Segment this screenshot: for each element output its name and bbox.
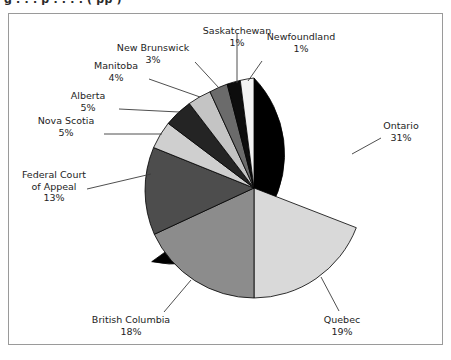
pie-label-nova-scotia-value: 5% — [31, 127, 101, 139]
pie-label-federal-court-of-appeal-name: Federal Court — [21, 169, 87, 181]
pie-label-alberta: Alberta 5% — [59, 90, 117, 113]
figure-caption-text: g . . . p . . . . ( pp ) — [4, 0, 122, 6]
leader-line-british-columbia — [164, 280, 191, 312]
pie-label-manitoba-value: 4% — [85, 72, 147, 84]
pie-label-nova-scotia-name: Nova Scotia — [31, 115, 101, 127]
leader-line-manitoba — [149, 79, 200, 97]
pie-slice-quebec[interactable] — [254, 188, 356, 298]
pie-slices — [145, 78, 356, 298]
figure-caption-cropped: g . . . p . . . . ( pp ) — [0, 0, 451, 11]
pie-label-new-brunswick-name: New Brunswick — [113, 42, 193, 54]
pie-label-federal-court-of-appeal: Federal Court of Appeal 13% — [21, 169, 87, 204]
leader-line-newfoundland — [248, 61, 262, 81]
pie-label-newfoundland: Newfoundland 1% — [262, 31, 340, 54]
pie-label-nova-scotia: Nova Scotia 5% — [31, 115, 101, 138]
chart-frame: Saskatchewan 1% Newfoundland 1% New Brun… — [8, 13, 443, 345]
pie-label-newfoundland-name: Newfoundland — [262, 31, 340, 43]
pie-label-alberta-name: Alberta — [59, 90, 117, 102]
leader-line-quebec — [321, 277, 339, 311]
pie-label-manitoba-name: Manitoba — [85, 60, 147, 72]
pie-label-quebec-name: Quebec — [312, 314, 372, 326]
pie-label-quebec: Quebec 19% — [312, 314, 372, 337]
pie-label-federal-court-of-appeal-value: 13% — [21, 192, 87, 204]
leader-line-new-brunswick — [195, 62, 219, 88]
pie-label-manitoba: Manitoba 4% — [85, 60, 147, 83]
pie-label-ontario-name: Ontario — [373, 120, 429, 132]
pie-label-federal-court-of-appeal-name2: of Appeal — [21, 181, 87, 193]
pie-label-alberta-value: 5% — [59, 102, 117, 114]
pie-label-british-columbia: British Columbia 18% — [82, 314, 180, 337]
pie-label-newfoundland-value: 1% — [262, 43, 340, 55]
screenshot-root: g . . . p . . . . ( pp ) — [0, 0, 451, 360]
pie-label-british-columbia-name: British Columbia — [82, 314, 180, 326]
leader-line-alberta — [119, 109, 179, 112]
pie-label-ontario: Ontario 31% — [373, 120, 429, 143]
pie-label-british-columbia-value: 18% — [82, 326, 180, 338]
pie-label-ontario-value: 31% — [373, 132, 429, 144]
pie-label-quebec-value: 19% — [312, 326, 372, 338]
leader-line-federal-court — [87, 174, 151, 189]
